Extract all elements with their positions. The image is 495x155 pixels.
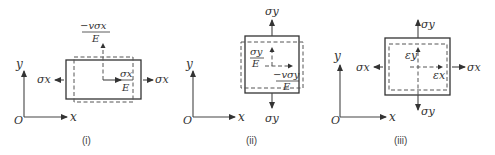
transverse-strain-denominator: E: [282, 81, 291, 92]
axial-arrow-icon: [270, 47, 275, 52]
x-axis-label: x: [70, 110, 77, 124]
stress-bottom-label: σy: [421, 105, 436, 118]
caption-iii: (iii): [394, 135, 407, 146]
axial-strain-denominator: E: [121, 82, 130, 93]
stress-right-label: σx: [155, 73, 170, 86]
origin-label: O: [331, 114, 340, 127]
axial-strain-numerator: σx: [120, 68, 133, 79]
strain-diagram: y O x σx σx −vσx E σx E (i) y O x: [0, 0, 495, 155]
stress-left-label: σx: [356, 61, 371, 74]
panel-i: y O x σx σx −vσx E σx E (i): [14, 20, 170, 146]
stress-left-label: σx: [37, 73, 52, 86]
axes-ii: y O x: [183, 57, 245, 127]
caption-ii: (ii): [246, 135, 257, 146]
transverse-arrow-icon: [288, 64, 293, 69]
stress-top-label: σy: [265, 5, 280, 18]
stress-right-label: σx: [467, 61, 482, 74]
y-axis-label: y: [15, 57, 23, 71]
x-axis-label: x: [238, 110, 245, 124]
strain-x-label: εx: [433, 69, 446, 82]
transverse-strain-numerator: −vσx: [80, 20, 107, 31]
x-axis-label: x: [389, 110, 396, 124]
caption-i: (i): [82, 135, 91, 146]
origin-label: O: [183, 114, 192, 127]
stress-top-label: σy: [421, 18, 436, 31]
panel-iii: y O x σx σx σy σy εy εx (iii): [331, 18, 482, 146]
axes-i: y O x: [14, 57, 77, 127]
strain-y-label: εy: [405, 49, 418, 62]
stress-bottom-label: σy: [265, 112, 280, 125]
transverse-strain-numerator: −vσy: [273, 69, 300, 80]
origin-label: O: [14, 114, 23, 127]
transverse-strain-denominator: E: [91, 33, 100, 44]
transverse-arrow-icon: [101, 43, 106, 48]
axial-strain-denominator: E: [251, 58, 260, 69]
y-axis-label: y: [333, 49, 341, 63]
axial-strain-numerator: σy: [250, 46, 263, 57]
y-axis-label: y: [185, 57, 193, 71]
panel-ii: y O x σy σy σy E −vσy E (ii): [183, 5, 303, 146]
